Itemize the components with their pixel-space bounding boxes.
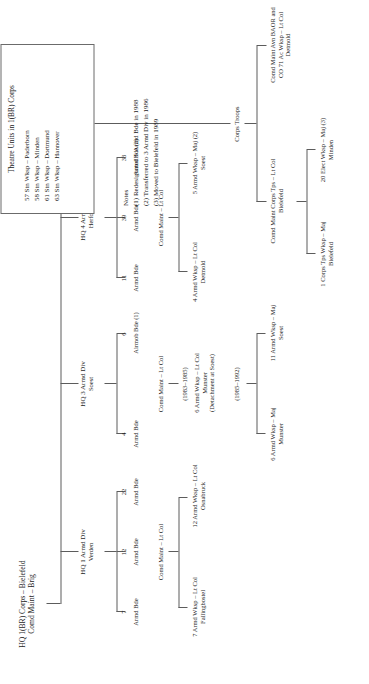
div3-wksp-early: 6 Armd Wksp – Lt Col Munster (Detachment… bbox=[192, 326, 215, 440]
div4-wksp-tick-0 bbox=[178, 271, 187, 272]
div3-wksp-late-0-line2: Munster bbox=[276, 386, 284, 482]
corps-branch-1-line2: CO 71 Ac Wksp – Lt Col bbox=[276, 0, 284, 108]
div4-bde-0-num: 11 bbox=[119, 258, 127, 298]
div4-wksp-1: 5 Armd Wksp – Maj (2) Soest bbox=[190, 112, 205, 214]
div3-bde-bar bbox=[116, 334, 117, 434]
div4-wksp-0-line1: 4 Armd Wksp – Lt Col bbox=[190, 222, 198, 322]
div1-comd-maint: Comd Maint – Lt Col bbox=[156, 494, 164, 610]
div1-bde-2-label: Armd Bde bbox=[131, 466, 139, 518]
corps-wksp-0-line2: Bielefeld bbox=[326, 204, 334, 304]
corps-branch-0-tick-0 bbox=[306, 253, 315, 254]
div3-period-late: (1985–1992) bbox=[232, 340, 240, 428]
div1-bde-1-label: Armd Bde bbox=[131, 526, 139, 578]
chart-canvas: HQ 1(BR) Corps – Bielefeld Comd Maint – … bbox=[0, 0, 369, 684]
org-chart: HQ 1(BR) Corps – Bielefeld Comd Maint – … bbox=[0, 0, 369, 684]
div3-wksp-late-1-line2: Soest bbox=[276, 284, 284, 382]
notes-heading: Notes bbox=[120, 16, 130, 206]
note-item: (3) Moved to Bielefeld in 1989 bbox=[150, 16, 160, 206]
note-item: (2) Transferred to 3 Armd Div in 1986 bbox=[140, 16, 150, 206]
corps-branch-0: Comd Maint Corps Tps – Lt Col Bielefeld bbox=[268, 138, 283, 264]
theatre-unit-item: 63 Stn Wksp – Hannover bbox=[51, 45, 61, 201]
div3-hq-line2: Soest bbox=[86, 334, 94, 434]
div1-wksp-tick-1 bbox=[178, 497, 187, 498]
corps-branch-0-tick-1 bbox=[306, 149, 315, 150]
div4-wksp-tick-1 bbox=[178, 163, 187, 164]
div3-bde-0-num: 4 bbox=[119, 414, 127, 454]
div3-hq-line1: HQ 3 Armd Div bbox=[78, 334, 86, 434]
theatre-unit-item: 61 Stn Wksp – Dortmund bbox=[41, 45, 51, 201]
div3-late-tick-0 bbox=[256, 433, 265, 434]
div3-bde-1-label: Airmob Bde (1) bbox=[131, 298, 139, 368]
notes-block: Notes (1) Redesignated 6 Armd Bde in 198… bbox=[120, 16, 161, 206]
div1-hq-line1: HQ 1 Armd Div bbox=[78, 502, 86, 602]
div3-wksp-late-0: 6 Armd Wksp – Maj Munster bbox=[268, 386, 283, 482]
rotated-chart-wrapper: HQ 1(BR) Corps – Bielefeld Comd Maint – … bbox=[0, 0, 369, 684]
theatre-unit-item: 58 Stn Wksp – Minden bbox=[31, 45, 41, 201]
div1-wksp-tick-0 bbox=[178, 607, 187, 608]
div1-bde-2-num: 22 bbox=[119, 472, 127, 512]
div3-late-bar bbox=[256, 334, 257, 434]
corps-branch-0-line1: Comd Maint Corps Tps – Lt Col bbox=[268, 138, 276, 264]
corps-troops-tick-0 bbox=[256, 201, 266, 202]
corps-troops-tick-1 bbox=[256, 45, 266, 46]
div4-wksp-bar bbox=[178, 164, 179, 272]
note-item: (1) Redesignated 6 Armd Bde in 1988 bbox=[130, 16, 140, 206]
div1-bde-0-label: Armd Bde bbox=[131, 586, 139, 638]
div3-bde-stem bbox=[104, 383, 116, 384]
div1-wksp-0-line2: Fallingbostel bbox=[198, 556, 206, 658]
corps-wksp-1-line2: Minden bbox=[326, 100, 334, 200]
corps-troops-stem bbox=[244, 123, 256, 124]
div3-bde-0-label: Armd Bde bbox=[131, 408, 139, 460]
corps-troops-bar bbox=[256, 46, 257, 202]
div4-bde-bar bbox=[116, 158, 117, 278]
corps-branch-1: Comd Maint Avn BAOR and CO 71 Ac Wksp – … bbox=[268, 0, 291, 108]
div1-wksp-stem bbox=[168, 551, 178, 552]
drop-div3 bbox=[60, 383, 78, 384]
theatre-units-list: 57 Stn Wksp – Paderborn 58 Stn Wksp – Mi… bbox=[15, 45, 61, 213]
div1-bde-1-num: 12 bbox=[119, 532, 127, 572]
div3-bde-1-num: 6 bbox=[119, 314, 127, 354]
corps-wksp-0-line1: 1 Corps Tps Wksp – Maj bbox=[318, 204, 326, 304]
div3-hq: HQ 3 Armd Div Soest bbox=[78, 334, 94, 434]
drop-div1 bbox=[60, 551, 78, 552]
root-subtitle: Comd Maint – Brig bbox=[27, 524, 36, 684]
div3-wksp-early-line3: (Detachment at Soest) bbox=[207, 326, 215, 440]
theatre-unit-item: 57 Stn Wksp – Paderborn bbox=[21, 45, 31, 201]
theatre-units-title: Theatre Units in 1(BR) Corps bbox=[1, 45, 15, 213]
div3-wksp-late-1-line1: 11 Armd Wksp – Maj bbox=[268, 284, 276, 382]
div3-early-stem bbox=[168, 383, 178, 384]
div1-wksp-0: 7 Armd Wksp – Lt Col Fallingbostel bbox=[190, 556, 205, 658]
corps-branch-0-bar bbox=[306, 150, 307, 254]
corps-troops-label: Corps Troops bbox=[232, 80, 240, 168]
div3-wksp-early-line2: Munster bbox=[200, 326, 208, 440]
div4-wksp-0: 4 Armd Wksp – Lt Col Detmold bbox=[190, 222, 205, 322]
div4-wksp-1-line2: Soest bbox=[198, 112, 206, 214]
div4-wksp-1-line1: 5 Armd Wksp – Maj (2) bbox=[190, 112, 198, 214]
div3-wksp-early-line1: 6 Armd Wksp – Lt Col bbox=[192, 326, 200, 440]
div1-wksp-1: 12 Armd Wksp – Lt Col Osnabruck bbox=[190, 444, 205, 548]
corps-branch-1-line1: Comd Maint Avn BAOR and bbox=[268, 0, 276, 108]
corps-wksp-1: 20 Elect Wksp – Maj (3) Minden bbox=[318, 100, 333, 200]
corps-branch-1-line3: Detmold bbox=[283, 0, 291, 108]
corps-wksp-0: 1 Corps Tps Wksp – Maj Bielefeld bbox=[318, 204, 333, 304]
div1-bde-bar bbox=[116, 492, 117, 612]
div3-late-tick-1 bbox=[256, 333, 265, 334]
div1-wksp-1-line2: Osnabruck bbox=[198, 444, 206, 548]
drop-div4 bbox=[60, 217, 78, 218]
div1-hq-line2: Verden bbox=[86, 502, 94, 602]
div3-comd-maint: Comd Maint – Lt Col bbox=[156, 326, 164, 442]
div3-wksp-late-1: 11 Armd Wksp – Maj Soest bbox=[268, 284, 283, 382]
div1-wksp-0-line1: 7 Armd Wksp – Lt Col bbox=[190, 556, 198, 658]
root-node: HQ 1(BR) Corps – Bielefeld Comd Maint – … bbox=[18, 524, 36, 684]
div4-bde-stem bbox=[104, 217, 116, 218]
corps-wksp-1-line1: 20 Elect Wksp – Maj (3) bbox=[318, 100, 326, 200]
div1-bde-0-num: 7 bbox=[119, 592, 127, 632]
div1-wksp-1-line1: 12 Armd Wksp – Lt Col bbox=[190, 444, 198, 548]
div4-wksp-0-line2: Detmold bbox=[198, 222, 206, 322]
div4-wksp-stem bbox=[168, 217, 178, 218]
div3-period-early: (1983–1985) bbox=[180, 340, 188, 428]
div4-bde-0-label: Armd Bde bbox=[131, 252, 139, 304]
theatre-units-block: Theatre Units in 1(BR) Corps 57 Stn Wksp… bbox=[0, 44, 94, 214]
div1-hq: HQ 1 Armd Div Verden bbox=[78, 502, 94, 602]
div1-wksp-bar bbox=[178, 498, 179, 608]
